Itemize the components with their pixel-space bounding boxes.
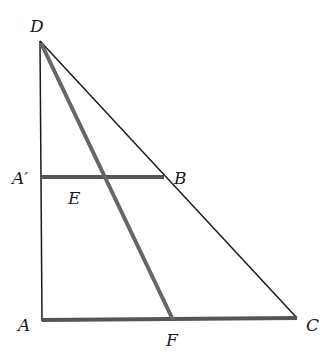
label-C: C xyxy=(306,315,319,335)
triangle-diagram: D A′ E B A F C xyxy=(0,0,327,356)
label-A: A xyxy=(16,315,30,335)
label-E: E xyxy=(67,188,81,208)
label-D: D xyxy=(29,16,44,36)
label-F: F xyxy=(165,330,179,350)
segment-DC xyxy=(40,41,297,318)
segment-AC xyxy=(42,318,297,320)
segment-DF xyxy=(41,43,173,320)
segment-DA xyxy=(40,41,42,321)
label-A-prime: A′ xyxy=(10,168,28,188)
label-B: B xyxy=(173,168,187,188)
